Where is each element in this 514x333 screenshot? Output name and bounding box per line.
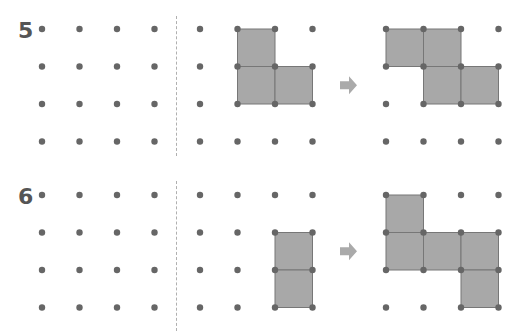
given-shape	[275, 233, 313, 308]
grid-dot	[458, 267, 464, 273]
grid-dot	[114, 63, 120, 69]
left-dot-grid	[39, 26, 158, 145]
grid-dot	[420, 26, 426, 32]
grid-dot	[151, 267, 157, 273]
shaded-square	[461, 270, 499, 308]
grid-dot	[39, 101, 45, 107]
grid-dot	[39, 26, 45, 32]
grid-dot	[383, 267, 389, 273]
grid-dot	[272, 304, 278, 310]
grid-dot	[39, 267, 45, 273]
grid-dot	[458, 101, 464, 107]
shaded-square	[275, 270, 313, 308]
grid-dot	[39, 229, 45, 235]
grid-dot	[197, 63, 203, 69]
grid-dot	[495, 138, 501, 144]
grid-dot	[234, 138, 240, 144]
grid-dot	[151, 63, 157, 69]
grid-dot	[495, 304, 501, 310]
shaded-square	[461, 67, 499, 105]
grid-dot	[151, 101, 157, 107]
grid-dot	[383, 63, 389, 69]
grid-dot	[39, 138, 45, 144]
grid-dot	[39, 304, 45, 310]
shaded-square	[238, 67, 276, 105]
grid-dot	[495, 267, 501, 273]
grid-dot	[420, 304, 426, 310]
grid-dot	[458, 138, 464, 144]
grid-dot	[272, 192, 278, 198]
grid-dot	[114, 192, 120, 198]
grid-dot	[309, 101, 315, 107]
grid-dot	[76, 101, 82, 107]
grid-dot	[197, 229, 203, 235]
grid-dot	[197, 304, 203, 310]
grid-dot	[272, 26, 278, 32]
grid-dot	[234, 101, 240, 107]
grid-dot	[197, 138, 203, 144]
dot-grids	[0, 0, 514, 165]
grid-dot	[151, 304, 157, 310]
grid-dot	[383, 26, 389, 32]
grid-dot	[383, 229, 389, 235]
grid-dot	[234, 26, 240, 32]
grid-dot	[272, 63, 278, 69]
shaded-square	[461, 233, 499, 271]
grid-dot	[272, 229, 278, 235]
shaded-square	[424, 233, 462, 271]
grid-dot	[114, 138, 120, 144]
grid-dot	[76, 267, 82, 273]
grid-dot	[420, 101, 426, 107]
grid-dot	[420, 229, 426, 235]
grid-dot	[76, 304, 82, 310]
grid-dot	[383, 192, 389, 198]
shaded-square	[275, 233, 313, 271]
grid-dot	[495, 63, 501, 69]
grid-dot	[151, 192, 157, 198]
grid-dot	[151, 26, 157, 32]
grid-dot	[234, 63, 240, 69]
shaded-square	[424, 29, 462, 67]
grid-dot	[272, 101, 278, 107]
grid-dot	[197, 267, 203, 273]
grid-dot	[458, 304, 464, 310]
right-arrow-icon	[340, 242, 357, 260]
problem-6: 6	[0, 165, 514, 333]
grid-dot	[114, 304, 120, 310]
grid-dot	[495, 101, 501, 107]
grid-dot	[39, 192, 45, 198]
grid-dot	[76, 192, 82, 198]
grid-dot	[234, 229, 240, 235]
grid-dot	[76, 229, 82, 235]
grid-dot	[197, 101, 203, 107]
grid-dot	[495, 192, 501, 198]
grid-dot	[114, 267, 120, 273]
right-arrow-icon	[340, 76, 357, 94]
problem-5: 5	[0, 0, 514, 165]
shaded-square	[386, 195, 424, 233]
grid-dot	[76, 138, 82, 144]
grid-dot	[234, 192, 240, 198]
grid-dot	[39, 63, 45, 69]
grid-dot	[458, 229, 464, 235]
grid-dot	[495, 229, 501, 235]
grid-dot	[383, 304, 389, 310]
grid-dot	[309, 138, 315, 144]
grid-dot	[309, 26, 315, 32]
grid-dot	[458, 63, 464, 69]
shaded-square	[238, 29, 276, 67]
grid-dot	[420, 63, 426, 69]
grid-dot	[151, 138, 157, 144]
shaded-square	[424, 67, 462, 105]
grid-dot	[234, 267, 240, 273]
grid-dot	[234, 304, 240, 310]
grid-dot	[197, 192, 203, 198]
grid-dot	[151, 229, 157, 235]
grid-dot	[458, 26, 464, 32]
shaded-square	[386, 233, 424, 271]
grid-dot	[458, 192, 464, 198]
grid-dot	[383, 101, 389, 107]
grid-dot	[420, 138, 426, 144]
grid-dot	[114, 229, 120, 235]
answer-shape	[386, 29, 499, 104]
